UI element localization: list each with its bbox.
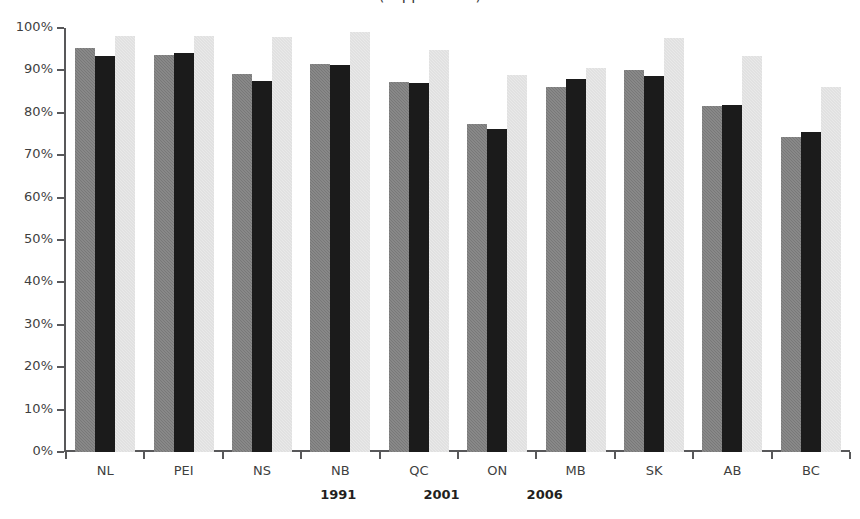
bar-group: [772, 28, 850, 452]
y-axis-tick-mark: [57, 239, 64, 241]
y-axis-tick-mark: [57, 366, 64, 368]
legend-swatch-icon: [400, 488, 414, 502]
bar-nl-2001: [95, 56, 115, 452]
bar-bc-2006: [821, 87, 841, 452]
y-axis-tick-mark: [57, 197, 64, 199]
bar-sk-1991: [624, 70, 644, 452]
legend-label: 2001: [423, 487, 459, 502]
y-axis-tick-mark: [57, 409, 64, 411]
y-axis-tick-label: 20%: [24, 358, 53, 373]
x-axis-tick-label: PEI: [144, 463, 222, 478]
y-axis-tick-label: 60%: [24, 189, 53, 204]
bars-area: [66, 28, 850, 452]
y-axis-tick-label: 70%: [24, 146, 53, 161]
x-axis-tick-label: ON: [458, 463, 536, 478]
bar-mb-2001: [566, 79, 586, 452]
y-axis-tick-label: 50%: [24, 231, 53, 246]
bar-group: [615, 28, 693, 452]
y-axis-tick-label: 10%: [24, 401, 53, 416]
x-axis-tick-label: AB: [693, 463, 771, 478]
bar-mb-1991: [546, 87, 566, 452]
y-axis: 100%90%80%70%60%50%40%30%20%10%0%: [0, 28, 64, 452]
y-axis-tick-label: 30%: [24, 316, 53, 331]
x-axis-tick-mark: [457, 452, 459, 459]
x-axis-tick-label: BC: [772, 463, 850, 478]
y-axis-tick-mark: [57, 281, 64, 283]
x-axis-tick-label: QC: [380, 463, 458, 478]
y-axis-tick-label: 90%: [24, 61, 53, 76]
x-axis-tick-label: NS: [223, 463, 301, 478]
bar-pei-1991: [154, 55, 174, 452]
bar-mb-2006: [586, 68, 606, 452]
bar-sk-2001: [644, 76, 664, 452]
bar-pei-2006: [194, 36, 214, 452]
bar-group: [693, 28, 771, 452]
legend-swatch-icon: [297, 488, 311, 502]
bar-group: [223, 28, 301, 452]
bar-ab-2001: [722, 105, 742, 452]
bar-ns-2001: [252, 81, 272, 452]
x-axis-tick-label: MB: [536, 463, 614, 478]
y-axis-tick-mark: [57, 451, 64, 453]
y-axis-tick-mark: [57, 154, 64, 156]
x-axis-tick-mark: [535, 452, 537, 459]
bar-bc-2001: [801, 132, 821, 452]
y-axis-tick-mark: [57, 27, 64, 29]
x-axis-category: MB: [536, 452, 614, 482]
x-axis-tick-mark: [300, 452, 302, 459]
bar-ab-2006: [742, 56, 762, 452]
bar-on-2006: [507, 75, 527, 452]
x-axis-tick-label: SK: [615, 463, 693, 478]
y-axis-tick-label: 0%: [32, 443, 53, 458]
y-axis-tick-mark: [57, 69, 64, 71]
bar-chart: (clipped title) 100%90%80%70%60%50%40%30…: [0, 0, 860, 519]
x-axis-category: BC: [772, 452, 850, 482]
bar-nb-1991: [310, 64, 330, 452]
legend-swatch-icon: [504, 488, 518, 502]
chart-legend: 199120012006: [0, 487, 860, 502]
y-axis-tick-label: 40%: [24, 273, 53, 288]
bar-group: [536, 28, 614, 452]
y-axis-tick-label: 80%: [24, 104, 53, 119]
bar-qc-1991: [389, 82, 409, 452]
legend-label: 1991: [320, 487, 356, 502]
x-axis-tick-mark: [379, 452, 381, 459]
x-axis-category: NB: [301, 452, 379, 482]
legend-item-1991[interactable]: 1991: [297, 487, 356, 502]
y-axis-tick-label: 100%: [16, 19, 53, 34]
bar-qc-2001: [409, 83, 429, 452]
x-axis-tick-mark: [143, 452, 145, 459]
bar-sk-2006: [664, 38, 684, 452]
bar-ab-1991: [702, 106, 722, 452]
x-axis-tick-label: NB: [301, 463, 379, 478]
x-axis-category: AB: [693, 452, 771, 482]
y-axis-tick-mark: [57, 324, 64, 326]
legend-item-2006[interactable]: 2006: [504, 487, 563, 502]
bar-nl-2006: [115, 36, 135, 452]
x-axis-end-tick-mark: [849, 452, 851, 459]
x-axis-tick-mark: [222, 452, 224, 459]
legend-label: 2006: [527, 487, 563, 502]
legend-item-2001[interactable]: 2001: [400, 487, 459, 502]
bar-nb-2006: [350, 32, 370, 452]
bar-nl-1991: [75, 48, 95, 452]
y-axis-tick-mark: [57, 112, 64, 114]
x-axis-tick-mark: [692, 452, 694, 459]
x-axis-category: PEI: [144, 452, 222, 482]
bar-pei-2001: [174, 53, 194, 452]
x-axis-category: NL: [66, 452, 144, 482]
x-axis-category: SK: [615, 452, 693, 482]
bar-ns-2006: [272, 37, 292, 452]
x-axis-category: QC: [380, 452, 458, 482]
bar-group: [144, 28, 222, 452]
bar-group: [66, 28, 144, 452]
x-axis-category: NS: [223, 452, 301, 482]
x-axis: NLPEINSNBQCONMBSKABBC: [66, 452, 850, 482]
bar-bc-1991: [781, 137, 801, 452]
x-axis-tick-mark: [614, 452, 616, 459]
bar-on-1991: [467, 124, 487, 452]
bar-qc-2006: [429, 50, 449, 452]
chart-title: (clipped title): [0, 0, 860, 4]
x-axis-category: ON: [458, 452, 536, 482]
x-axis-tick-mark: [65, 452, 67, 459]
